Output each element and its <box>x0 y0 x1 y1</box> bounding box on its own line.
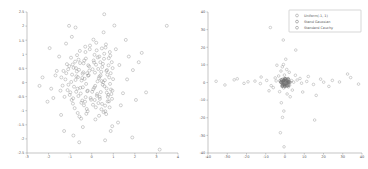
data-point-marker <box>88 44 91 47</box>
x-tick-label: 2 <box>134 155 136 159</box>
data-point-marker <box>307 75 310 78</box>
data-point-marker <box>77 95 80 98</box>
data-point-marker <box>63 95 66 98</box>
data-point-marker <box>59 89 62 92</box>
data-point-marker <box>71 102 74 105</box>
data-point-marker <box>224 84 227 87</box>
data-point-marker <box>108 51 111 54</box>
y-tick-label: 1.5 <box>19 39 25 43</box>
data-point-marker <box>294 74 297 77</box>
data-point-marker <box>72 134 75 137</box>
x-tick-label: -3 <box>25 155 29 159</box>
plot-legend[interactable]: Uniform(-1, 1)Stand GaussianStandard Cau… <box>289 10 361 32</box>
data-point-marker <box>108 106 111 109</box>
data-point-marker <box>84 45 87 48</box>
data-point-marker <box>291 89 294 92</box>
y-tick-label: 1 <box>22 53 24 57</box>
data-point-marker <box>66 89 69 92</box>
data-point-marker <box>85 82 88 85</box>
data-point-marker <box>67 83 70 86</box>
y-tick-label: -1 <box>21 109 25 113</box>
data-point-marker <box>104 104 107 107</box>
y-tick-label: 2 <box>22 24 24 28</box>
data-point-marker <box>300 82 303 85</box>
data-point-marker <box>91 68 94 71</box>
data-point-marker <box>77 58 80 61</box>
data-point-marker <box>279 131 282 134</box>
scatter-plot-figure: -2.5-2-1.5-1-0.500.511.522.5 -3-2-101234… <box>0 0 368 169</box>
data-point-marker <box>103 52 106 55</box>
data-point-marker <box>270 84 273 87</box>
data-point-marker <box>328 85 331 88</box>
data-point-marker <box>73 85 76 88</box>
data-point-marker <box>357 83 360 86</box>
data-point-marker <box>283 74 286 77</box>
y-tick-label: 40 <box>201 10 206 14</box>
data-point-marker <box>103 79 106 82</box>
data-point-marker <box>76 54 79 57</box>
data-point-marker <box>272 86 275 89</box>
data-point-marker <box>301 91 304 94</box>
data-point-marker <box>282 39 285 42</box>
y-tick-label: -20 <box>200 116 207 120</box>
data-point-marker <box>276 64 279 67</box>
data-point-marker <box>75 70 78 73</box>
data-point-marker <box>104 139 107 142</box>
data-point-marker <box>92 103 95 106</box>
data-point-marker <box>85 112 88 115</box>
data-point-marker <box>96 80 99 83</box>
data-point-marker <box>74 60 77 63</box>
data-point-marker <box>107 57 110 60</box>
data-point-marker <box>99 91 102 94</box>
data-point-marker <box>107 64 110 67</box>
y-tick-label: -2.5 <box>17 151 24 155</box>
data-point-marker <box>95 63 98 66</box>
left-x-tick-group: -3-2-101234 <box>25 153 180 159</box>
x-tick-label: 10 <box>302 155 307 159</box>
data-point-marker <box>283 110 286 113</box>
data-point-marker <box>79 92 82 95</box>
data-point-marker <box>103 13 106 16</box>
data-point-marker <box>108 76 111 79</box>
data-point-marker <box>280 101 283 104</box>
data-point-marker <box>111 67 114 70</box>
right-scatter-panel: -40-30-20-10010203040 -40-30-20-10010203… <box>184 0 368 169</box>
data-point-marker <box>84 96 87 99</box>
data-point-marker <box>41 76 44 79</box>
data-point-marker <box>67 68 70 71</box>
y-tick-label: -30 <box>200 134 207 138</box>
data-point-marker <box>100 47 103 50</box>
data-point-marker <box>121 92 124 95</box>
data-point-marker <box>98 97 101 100</box>
data-point-marker <box>288 71 291 74</box>
data-point-marker <box>93 71 96 74</box>
data-point-marker <box>280 70 283 73</box>
right-plot-svg: -40-30-20-10010203040 -40-30-20-10010203… <box>184 0 368 169</box>
right-x-tick-group: -40-30-20-10010203040 <box>205 153 365 159</box>
data-point-marker <box>106 73 109 76</box>
data-point-marker <box>50 87 53 90</box>
x-tick-label: 40 <box>360 155 365 159</box>
data-point-marker <box>61 84 64 87</box>
data-point-marker <box>110 97 113 100</box>
data-point-marker <box>74 26 77 29</box>
data-point-marker <box>78 115 81 118</box>
y-tick-label: 30 <box>201 28 206 32</box>
x-tick-label: -20 <box>244 155 251 159</box>
data-point-marker <box>97 77 100 80</box>
x-tick-label: 30 <box>340 155 345 159</box>
data-point-marker <box>84 100 87 103</box>
data-point-marker <box>145 91 148 94</box>
data-point-marker <box>124 38 127 41</box>
y-tick-label: -0.5 <box>17 95 24 99</box>
x-tick-label: 1 <box>112 155 114 159</box>
data-point-marker <box>313 119 316 122</box>
data-point-marker <box>299 77 302 80</box>
data-point-marker <box>65 63 68 66</box>
data-point-marker <box>346 73 349 76</box>
y-tick-label: 0 <box>22 81 25 85</box>
data-point-marker <box>58 55 61 58</box>
data-point-marker <box>74 78 77 81</box>
data-point-marker <box>105 113 108 116</box>
left-plot-svg: -2.5-2-1.5-1-0.500.511.522.5 -3-2-101234 <box>0 0 184 169</box>
